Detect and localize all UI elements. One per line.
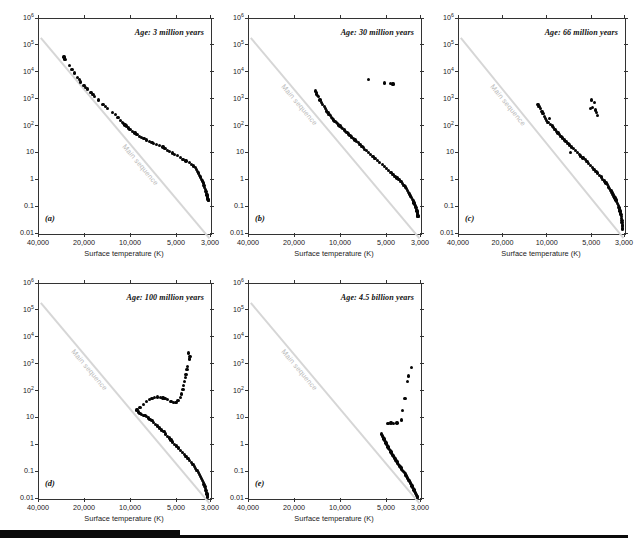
data-point — [386, 422, 389, 425]
y-tick-label: 106 — [214, 278, 244, 287]
x-tick-label: 3,000 — [397, 503, 443, 512]
y-tick-label: 1 — [214, 439, 244, 448]
x-tick-mark-top — [294, 280, 295, 284]
y-tick-mark-right — [420, 283, 424, 284]
y-tick-mark — [245, 309, 249, 310]
y-tick-mark-right — [420, 498, 424, 499]
x-tick-mark-top — [248, 280, 249, 284]
age-annotation: Age: 4.5 billion years — [341, 293, 414, 302]
y-tick-mark — [245, 336, 249, 337]
data-point — [407, 374, 410, 377]
x-tick-mark — [294, 498, 295, 502]
x-tick-mark — [248, 498, 249, 502]
y-tick-label: 104 — [214, 332, 244, 341]
x-tick-mark — [420, 498, 421, 502]
y-tick-mark-right — [420, 309, 424, 310]
footer-rule-thin — [0, 535, 628, 538]
x-axis-title: Surface temperature (K) — [248, 514, 420, 523]
y-tick-mark — [245, 363, 249, 364]
y-tick-label: 10 — [214, 412, 244, 421]
x-tick-label: 40,000 — [225, 503, 271, 512]
panel-letter: (e) — [255, 479, 264, 488]
y-tick-mark-right — [420, 471, 424, 472]
y-tick-label: 103 — [214, 359, 244, 368]
y-tick-label: 0.01 — [214, 493, 244, 502]
x-tick-mark-top — [386, 280, 387, 284]
y-tick-label: 105 — [214, 305, 244, 314]
y-tick-label: 0.1 — [214, 466, 244, 475]
y-tick-mark — [245, 390, 249, 391]
y-tick-mark — [245, 444, 249, 445]
y-tick-mark-right — [420, 417, 424, 418]
y-tick-mark-right — [420, 444, 424, 445]
x-tick-mark-top — [340, 280, 341, 284]
y-tick-label: 102 — [214, 386, 244, 395]
x-tick-mark — [386, 498, 387, 502]
plot-frame — [248, 283, 422, 500]
x-tick-label: 20,000 — [271, 503, 317, 512]
data-point — [395, 421, 398, 424]
y-tick-mark-right — [420, 390, 424, 391]
y-tick-mark-right — [420, 336, 424, 337]
x-tick-mark — [340, 498, 341, 502]
data-point — [403, 397, 406, 400]
y-tick-mark — [245, 471, 249, 472]
y-tick-mark — [245, 417, 249, 418]
y-tick-mark-right — [420, 363, 424, 364]
x-tick-label: 10,000 — [317, 503, 363, 512]
data-point — [400, 418, 403, 421]
